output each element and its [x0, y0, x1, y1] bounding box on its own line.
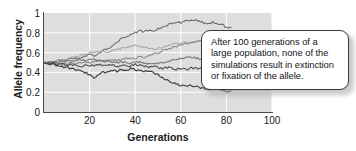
- x-tick-label: 100: [264, 115, 281, 126]
- callout-text: After 100 generations of a large populat…: [211, 36, 340, 81]
- y-tick-label: 1: [14, 8, 40, 19]
- x-tick-label: 60: [175, 115, 186, 126]
- x-tick-label: 40: [130, 115, 141, 126]
- y-tick-label: 0: [14, 107, 40, 118]
- x-tick-label: 20: [84, 115, 95, 126]
- y-tick-label: 0.4: [14, 67, 40, 78]
- y-tick-label: 0.6: [14, 47, 40, 58]
- y-tick-label: 0.8: [14, 27, 40, 38]
- x-tick-label: 80: [221, 115, 232, 126]
- y-axis-tick-labels: 00.20.40.60.81: [14, 0, 40, 151]
- callout-box: After 100 generations of a large populat…: [201, 30, 349, 90]
- y-axis-line: [43, 12, 44, 113]
- x-axis-title: Generations: [44, 131, 272, 143]
- y-tick-label: 0.2: [14, 87, 40, 98]
- figure-root: Allele frequency 00.20.40.60.81 Generati…: [0, 0, 356, 151]
- x-axis-line: [43, 112, 273, 113]
